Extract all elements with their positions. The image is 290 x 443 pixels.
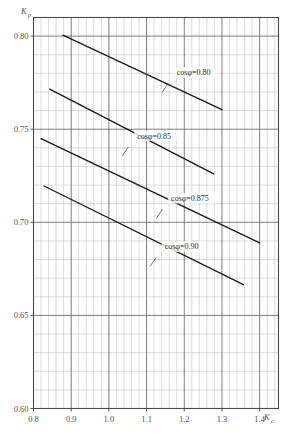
y-tick-label: 0.80 xyxy=(14,31,29,41)
series-label: cosφ=0.85 xyxy=(137,132,171,141)
x-tick-label: 1.0 xyxy=(104,414,115,424)
x-tick-label: 1.2 xyxy=(179,414,190,424)
series-label: cosφ=0.875 xyxy=(171,194,209,203)
chart-background xyxy=(0,0,290,443)
y-tick-label: 0.65 xyxy=(14,310,29,320)
y-tick-label: 0.60 xyxy=(14,404,29,414)
y-tick-label: 0.75 xyxy=(14,124,29,134)
x-tick-label: 1.1 xyxy=(141,414,152,424)
chart-container: 0.80.91.01.11.21.31.4 0.800.750.700.650.… xyxy=(0,0,290,443)
x-axis-label-sub: c xyxy=(271,418,274,424)
series-label: cosφ=0.80 xyxy=(177,68,211,77)
x-tick-label: 1.3 xyxy=(217,414,228,424)
kp-kc-chart: 0.80.91.01.11.21.31.4 0.800.750.700.650.… xyxy=(0,0,290,443)
y-axis-label-sub: p xyxy=(27,12,31,18)
y-tick-label: 0.70 xyxy=(14,217,29,227)
x-tick-label: 0.8 xyxy=(28,414,39,424)
x-tick-label: 0.9 xyxy=(66,414,77,424)
series-label: cosφ=0.90 xyxy=(165,242,199,251)
